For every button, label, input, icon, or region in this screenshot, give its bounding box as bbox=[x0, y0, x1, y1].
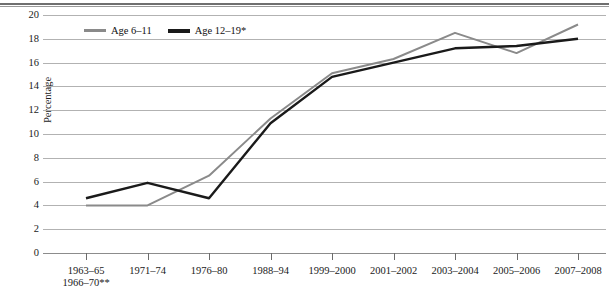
y-axis-tick-label: 2 bbox=[13, 224, 39, 235]
x-axis-tick-label: 1999–2000 bbox=[308, 265, 355, 277]
plot-area: Percentage 20181614121086420 1963–651966… bbox=[43, 15, 606, 253]
x-axis-tick-mark bbox=[86, 253, 87, 260]
legend-item-age-6-11: Age 6–11 bbox=[84, 25, 152, 36]
page-separator-rule bbox=[0, 3, 609, 5]
series-lines bbox=[43, 15, 606, 253]
x-axis-tick-label: 2001–2002 bbox=[370, 265, 417, 277]
y-axis-tick-label: 14 bbox=[13, 81, 39, 92]
page-separator-rule-thin bbox=[0, 6, 609, 7]
y-axis-tick-label: 12 bbox=[13, 105, 39, 116]
y-axis-tick-label: 4 bbox=[13, 200, 39, 211]
x-axis-tick-label: 1971–74 bbox=[129, 265, 166, 277]
y-axis-tick-label: 0 bbox=[13, 248, 39, 259]
legend-label-age-12-19: Age 12–19* bbox=[195, 25, 247, 36]
chart-figure: Percentage 20181614121086420 1963–651966… bbox=[0, 0, 609, 306]
gridline bbox=[43, 253, 606, 254]
x-axis-tick-mark bbox=[578, 253, 579, 260]
legend-swatch-icon-age-6-11 bbox=[84, 29, 106, 32]
x-axis-tick-label: 1963–651966–70** bbox=[62, 265, 109, 289]
legend-label-age-6-11: Age 6–11 bbox=[111, 25, 152, 36]
x-axis-tick-mark bbox=[517, 253, 518, 260]
x-axis-tick-label: 2003–2004 bbox=[431, 265, 478, 277]
legend-item-age-12-19: Age 12–19* bbox=[168, 25, 247, 36]
x-axis-tick-mark bbox=[209, 253, 210, 260]
series-line-age-12-19 bbox=[86, 39, 578, 198]
x-axis-tick-mark bbox=[332, 253, 333, 260]
x-axis-tick-mark bbox=[394, 253, 395, 260]
x-axis-tick-label: 2005–2006 bbox=[493, 265, 540, 277]
x-axis-tick-mark bbox=[148, 253, 149, 260]
x-axis-tick-mark bbox=[455, 253, 456, 260]
y-axis-tick-label: 18 bbox=[13, 34, 39, 45]
x-axis-tick-mark bbox=[271, 253, 272, 260]
y-axis-tick-label: 10 bbox=[13, 129, 39, 140]
legend-swatch-icon-age-12-19 bbox=[168, 29, 190, 33]
y-axis-tick-label: 20 bbox=[13, 10, 39, 21]
y-axis-tick-label: 8 bbox=[13, 153, 39, 164]
x-axis-tick-label: 1988–94 bbox=[252, 265, 289, 277]
chart-legend: Age 6–11 Age 12–19* bbox=[84, 25, 246, 36]
series-line-age-6-11 bbox=[86, 25, 578, 206]
y-axis-tick-label: 16 bbox=[13, 58, 39, 69]
y-axis-tick-label: 6 bbox=[13, 177, 39, 188]
x-axis-tick-label: 2007–2008 bbox=[554, 265, 601, 277]
x-axis-tick-label: 1976–80 bbox=[191, 265, 228, 277]
